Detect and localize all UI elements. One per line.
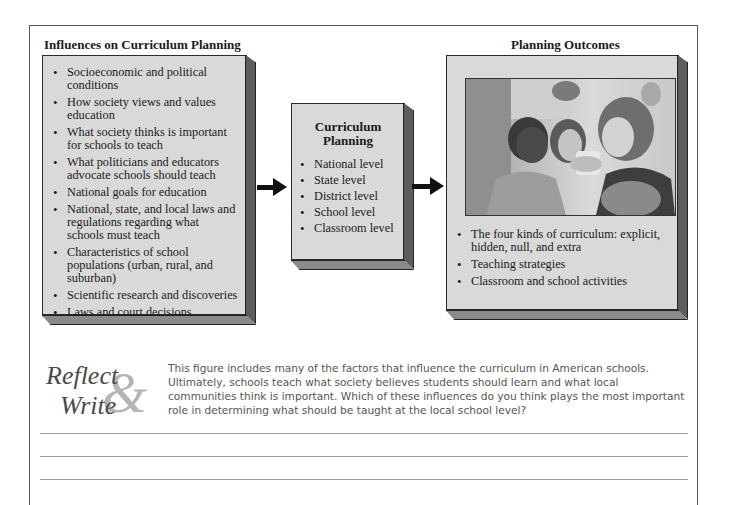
- list-item: What politicians and educators advocate …: [51, 156, 238, 182]
- writing-line[interactable]: [40, 479, 688, 480]
- reflect-prompt: This figure includes many of the factors…: [168, 361, 688, 417]
- list-item: Socioeconomic and political conditions: [51, 66, 238, 92]
- middle-panel-title: Curriculum Planning: [312, 120, 384, 148]
- planning-levels-list: National level State level District leve…: [292, 158, 404, 235]
- svg-text:Write: Write: [60, 391, 116, 420]
- list-item: Classroom and school activities: [455, 275, 670, 288]
- box-side-shading: [677, 55, 688, 320]
- list-item: Characteristics of school populations (u…: [51, 246, 238, 285]
- influences-list: Socioeconomic and political conditions H…: [43, 56, 246, 319]
- writing-line[interactable]: [40, 456, 688, 457]
- reflect-and-write-logo: & Reflect Write: [42, 360, 152, 420]
- list-item: How society views and values education: [51, 96, 238, 122]
- list-item: The four kinds of curriculum: explicit, …: [455, 228, 670, 254]
- planning-outcomes-box: The four kinds of curriculum: explicit, …: [446, 55, 679, 310]
- list-item: District level: [298, 190, 400, 203]
- reflect-write-logo-icon: & Reflect Write: [42, 360, 152, 420]
- list-item: School level: [298, 206, 400, 219]
- writing-line[interactable]: [40, 433, 688, 434]
- right-panel-title: Planning Outcomes: [511, 37, 620, 53]
- outcomes-list: The four kinds of curriculum: explicit, …: [455, 228, 670, 292]
- list-item: What society thinks is important for sch…: [51, 126, 238, 152]
- classroom-photo: [465, 78, 676, 216]
- list-item: National goals for education: [51, 186, 238, 199]
- list-item: National, state, and local laws and regu…: [51, 203, 238, 242]
- influences-box: Socioeconomic and political conditions H…: [42, 55, 247, 315]
- photo-illustration: [466, 79, 675, 215]
- svg-text:Reflect: Reflect: [45, 361, 119, 390]
- box-bottom-shading: [291, 260, 415, 270]
- left-panel-title: Influences on Curriculum Planning: [44, 37, 241, 53]
- box-side-shading: [245, 55, 256, 325]
- list-item: Scientific research and discoveries: [51, 289, 238, 302]
- list-item: State level: [298, 174, 400, 187]
- list-item: National level: [298, 158, 400, 171]
- curriculum-planning-box: Curriculum Planning National level State…: [291, 103, 405, 260]
- list-item: Teaching strategies: [455, 258, 670, 271]
- list-item: Classroom level: [298, 222, 400, 235]
- box-bottom-shading: [446, 310, 689, 320]
- list-item: Laws and court decisions: [51, 306, 238, 319]
